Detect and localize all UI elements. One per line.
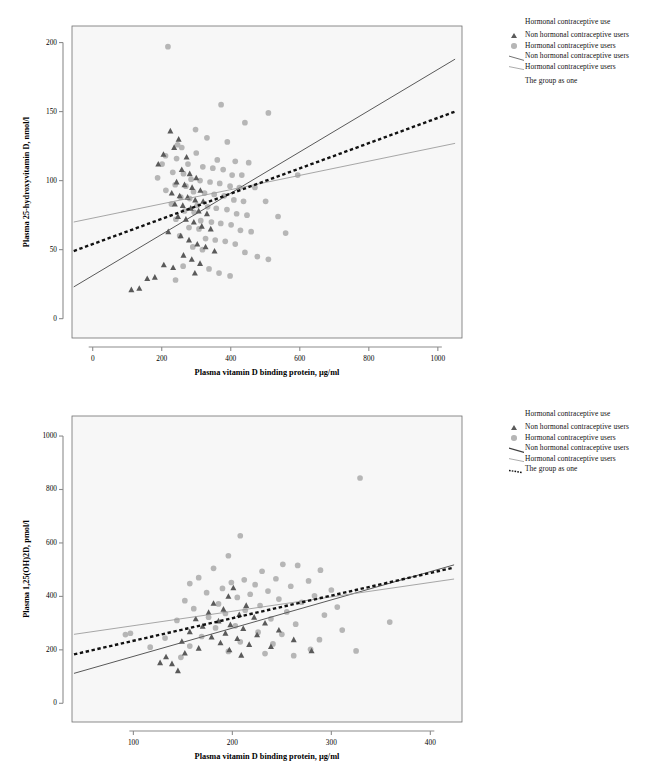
legend-item-circle-1: Hormonal contraceptive users [508, 40, 629, 51]
x-tick-label: 200 [212, 738, 252, 747]
legend-label-2-4: The group as one [525, 465, 577, 472]
figure-container: Plasma 25-hydroxyvitamin D, nmol/l Plasm… [0, 0, 653, 784]
legend-item-circle-2: Hormonal contraceptive users [508, 432, 629, 443]
y-tick-label: 1000 [42, 431, 57, 440]
chart-panel-1: Plasma 25-hydroxyvitamin D, nmol/l Plasm… [0, 0, 653, 392]
y-tick-label: 800 [46, 484, 57, 493]
legend-item-line-light-2: Hormonal contraceptive users [508, 453, 629, 464]
y-tick-label: 200 [46, 645, 57, 654]
x-tick-label: 800 [349, 354, 389, 363]
solid-dark-line-icon [508, 51, 525, 62]
y-tick-label: 0 [53, 314, 57, 323]
legend-label-1-3: Hormonal contraceptive users [525, 63, 616, 70]
legend-2: Hormonal contraceptive use Non hormonal … [508, 410, 629, 474]
x-tick-label: 400 [410, 738, 450, 747]
triangle-marker-icon [508, 422, 525, 433]
solid-light-line-icon [508, 61, 525, 72]
legend-label-1-4: The group as one [525, 77, 577, 84]
legend-title-2: Hormonal contraceptive use [525, 410, 629, 417]
legend-item-triangle-1: Non hormonal contraceptive users [508, 30, 629, 41]
dotted-line-icon [508, 464, 525, 475]
legend-item-line-dark-2: Non hormonal contraceptive users [508, 443, 629, 454]
solid-light-line-icon [508, 453, 525, 464]
chart-panel-2: Plasma 1,25(OH)2D, pmol/l Plasma vitamin… [0, 392, 653, 784]
y-tick-label: 600 [46, 538, 57, 547]
legend-label-1-1: Hormonal contraceptive users [525, 42, 616, 49]
x-tick-label: 100 [113, 738, 153, 747]
legend-label-1-0: Non hormonal contraceptive users [525, 31, 629, 38]
x-tick-label: 600 [280, 354, 320, 363]
triangle-marker-icon [508, 30, 525, 41]
solid-dark-line-icon [508, 443, 525, 454]
dotted-line-icon [508, 76, 525, 87]
legend-item-line-light-1: Hormonal contraceptive users [508, 61, 629, 72]
x-tick-label: 400 [211, 354, 251, 363]
legend-title-1: Hormonal contraceptive use [525, 18, 629, 25]
legend-label-2-2: Non hormonal contraceptive users [525, 444, 629, 451]
legend-item-dotted-2: The group as one [508, 464, 629, 475]
y-tick-label: 0 [53, 698, 57, 707]
legend-1: Hormonal contraceptive use Non hormonal … [508, 18, 629, 86]
y-tick-label: 150 [46, 107, 57, 116]
legend-item-line-dark-1: Non hormonal contraceptive users [508, 51, 629, 62]
y-tick-label: 100 [46, 176, 57, 185]
legend-item-dotted-1: The group as one [508, 76, 629, 87]
x-tick-label: 0 [73, 354, 113, 363]
circle-marker-icon [508, 432, 525, 443]
circle-marker-icon [508, 40, 525, 51]
legend-label-1-2: Non hormonal contraceptive users [525, 52, 629, 59]
legend-item-triangle-2: Non hormonal contraceptive users [508, 422, 629, 433]
legend-label-2-0: Non hormonal contraceptive users [525, 423, 629, 430]
legend-label-2-1: Hormonal contraceptive users [525, 434, 616, 441]
y-tick-label: 50 [50, 245, 57, 254]
legend-label-2-3: Hormonal contraceptive users [525, 455, 616, 462]
x-tick-label: 1000 [418, 354, 458, 363]
y-tick-label: 400 [46, 591, 57, 600]
x-tick-label: 200 [142, 354, 182, 363]
x-tick-label: 300 [311, 738, 351, 747]
y-tick-label: 200 [46, 38, 57, 47]
